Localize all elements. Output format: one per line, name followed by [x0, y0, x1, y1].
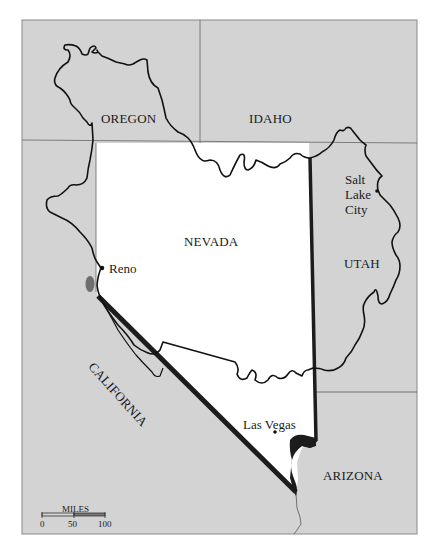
city-label-city: City — [345, 202, 371, 217]
state-label-idaho: IDAHO — [249, 112, 292, 125]
lake-tahoe — [86, 276, 95, 292]
state-label-arizona: ARIZONA — [323, 469, 383, 482]
state-label-nevada: NEVADA — [184, 235, 238, 248]
salt-lake-city-dot — [375, 189, 379, 193]
scale-tick-0: 0 — [40, 520, 45, 529]
city-label-reno: Reno — [109, 262, 136, 275]
city-label-lake: Lake — [345, 187, 371, 202]
reno-dot — [100, 266, 105, 271]
city-label-salt-lake-city: Salt Lake City — [345, 172, 371, 217]
scale-tick-100: 100 — [98, 520, 112, 529]
city-label-las-vegas: Las Vegas — [243, 418, 296, 431]
scale-tick-50: 50 — [68, 520, 77, 529]
scale-bar-title: MILES — [62, 505, 89, 514]
city-label-salt: Salt — [345, 172, 371, 187]
state-label-oregon: OREGON — [101, 112, 156, 125]
state-label-utah: UTAH — [344, 257, 380, 270]
